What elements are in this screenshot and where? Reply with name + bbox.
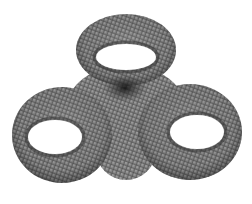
triple-torus-figure: triple torus mesh xyxy=(0,0,252,204)
center-dimple xyxy=(103,74,147,102)
triple-torus-image xyxy=(0,0,252,204)
torus-body xyxy=(12,14,242,183)
